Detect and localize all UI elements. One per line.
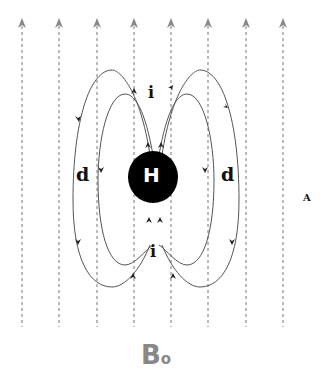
label-B-sub: o xyxy=(161,350,171,368)
diagram-canvas xyxy=(0,0,326,384)
label-i-bottom: i xyxy=(150,242,156,261)
label-i-top: i xyxy=(148,83,154,102)
label-B: B xyxy=(141,340,161,370)
label-d-left: d xyxy=(76,163,89,185)
label-d-right: d xyxy=(221,163,234,185)
label-A: A xyxy=(303,192,311,203)
label-B0: Bo xyxy=(141,340,171,370)
nucleus-label: H xyxy=(143,163,160,187)
